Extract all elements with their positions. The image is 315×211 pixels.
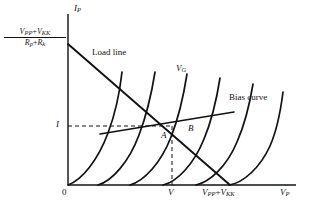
point-b-label: B <box>188 124 194 133</box>
vg-curve-6 <box>229 92 283 185</box>
y-intercept-numerator: VPP+VKK <box>4 28 66 37</box>
num-sub2: KK <box>42 29 51 36</box>
x-supply-label: VPP+VKK <box>202 188 235 198</box>
vg-label-sub: G <box>182 66 187 73</box>
x-tick-text: V <box>168 187 174 197</box>
vg-curve-1 <box>68 72 122 185</box>
vg-label: VG <box>176 64 186 74</box>
den-sub2: k <box>42 40 45 47</box>
construction-guides <box>68 126 172 185</box>
bias-curve-label: Bias curve <box>229 93 267 102</box>
x-axis-label: VP <box>280 188 289 198</box>
y-axis-label-sub: P <box>77 6 81 13</box>
vg-curve-3 <box>130 74 187 185</box>
point-a-label: A <box>161 131 167 140</box>
x-tick-label-v: V <box>168 188 174 197</box>
y-intercept-fraction: VPP+VKK Rp+Rk <box>4 28 66 48</box>
x-axis-label-sub: P <box>286 190 290 197</box>
y-tick-label-i: I <box>56 120 59 129</box>
origin-label: 0 <box>62 188 67 197</box>
supply-sub2: KK <box>226 190 235 197</box>
vg-curve-2 <box>98 72 155 185</box>
load-line-label: Load line <box>92 48 126 57</box>
y-axis-label: IP <box>74 4 81 14</box>
y-tick-text: I <box>56 119 59 129</box>
vg-curve-family <box>68 72 283 185</box>
figure-root: IP VPP+VKK Rp+Rk Load line VG Bias curve… <box>0 0 315 211</box>
point-b-text: B <box>188 123 194 133</box>
y-intercept-denominator: Rp+Rk <box>4 39 66 48</box>
point-a-text: A <box>161 130 167 140</box>
